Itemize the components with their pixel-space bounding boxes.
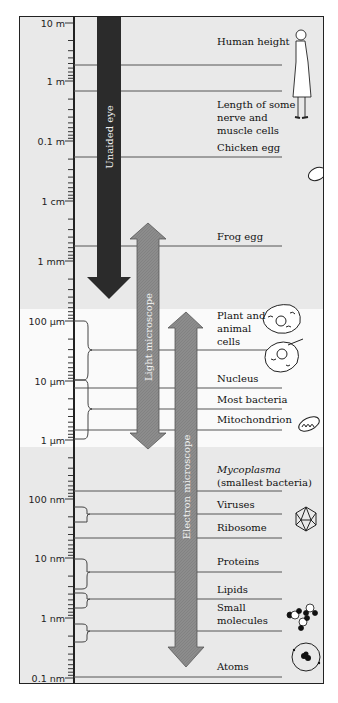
animal-cell-icon: [265, 339, 303, 372]
label-mitochondrion: Mitochondrion: [217, 413, 292, 426]
molecules-icon: [287, 604, 318, 631]
label-nerve-cells: Length of some nerve and muscle cells: [217, 98, 296, 137]
label-viruses: Viruses: [217, 498, 255, 511]
label-plant-animal-cells: Plant and animal cells: [217, 309, 265, 348]
label-atoms: Atoms: [217, 660, 249, 673]
label-small-molecules: Small molecules: [217, 601, 268, 627]
label-mycoplasma: Mycoplasma (smallest bacteria): [217, 463, 312, 489]
label-nucleus: Nucleus: [217, 372, 258, 385]
plant-cell-icon: [263, 305, 300, 334]
mitochondrion-icon: [296, 414, 321, 434]
egg-icon: [306, 165, 324, 183]
size-scale-diagram: 10 m 1 m 0.1 m 1 cm 1 mm 100 µm 10 µm 1 …: [19, 16, 324, 684]
label-ribosome: Ribosome: [217, 521, 267, 534]
label-most-bacteria: Most bacteria: [217, 393, 287, 406]
label-chicken-egg: Chicken egg: [217, 141, 280, 154]
label-proteins: Proteins: [217, 555, 259, 568]
atom-icon: [292, 643, 320, 671]
label-lipids: Lipids: [217, 583, 248, 596]
light-microscope-arrow: Light microscope: [130, 223, 166, 449]
label-frog-egg: Frog egg: [217, 230, 263, 243]
label-human-height: Human height: [217, 35, 290, 48]
svg-text:Light microscope: Light microscope: [143, 293, 154, 381]
svg-text:Electron microscope: Electron microscope: [181, 435, 192, 540]
svg-text:Unaided eye: Unaided eye: [104, 105, 115, 168]
unaided-eye-arrow: Unaided eye: [87, 17, 131, 299]
electron-microscope-arrow: Electron microscope: [168, 312, 204, 667]
virus-icon: [296, 507, 316, 531]
